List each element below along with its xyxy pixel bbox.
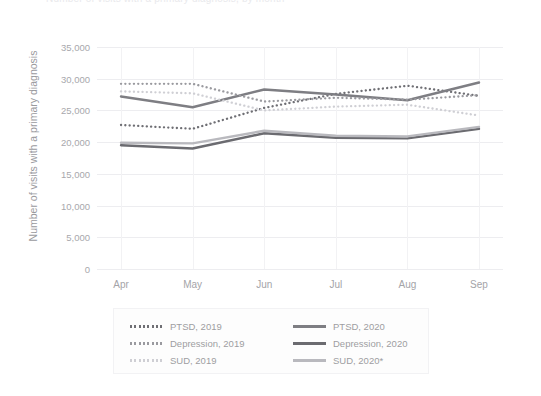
y-axis-tick-label: 0 (85, 264, 90, 275)
legend-swatch-icon (130, 325, 163, 328)
legend-item[interactable]: PTSD, 2019 (130, 318, 293, 335)
x-axis-tick-label: Jun (256, 279, 272, 290)
y-axis-tick-label: 10,000 (61, 200, 90, 211)
legend-swatch-icon (130, 359, 163, 362)
legend-item[interactable]: Depression, 2020 (293, 335, 453, 352)
series-line (121, 83, 479, 108)
x-axis-tick-label: May (183, 279, 202, 290)
legend-label: PTSD, 2019 (170, 321, 222, 332)
legend-item[interactable]: PTSD, 2020 (293, 318, 453, 335)
chart-legend: PTSD, 2019PTSD, 2020Depression, 2019Depr… (113, 308, 429, 374)
y-axis-tick-label: 25,000 (61, 105, 90, 116)
legend-label: PTSD, 2020 (333, 321, 385, 332)
plot-area: 05,00010,00015,00020,00025,00030,00035,0… (97, 47, 503, 272)
legend-label: Depression, 2019 (170, 338, 244, 349)
legend-item[interactable]: SUD, 2019 (130, 352, 293, 369)
x-axis-tick-label: Apr (113, 279, 129, 290)
legend-label: Depression, 2020 (333, 338, 407, 349)
legend-swatch-icon (293, 342, 326, 345)
y-axis-tick-label: 15,000 (61, 168, 90, 179)
y-axis-title: Number of visits with a primary diagnosi… (27, 21, 39, 271)
y-axis-tick-label: 20,000 (61, 137, 90, 148)
x-axis-tick-label: Jul (329, 279, 342, 290)
legend-item[interactable]: Depression, 2019 (130, 335, 293, 352)
legend-swatch-icon (293, 359, 326, 362)
y-axis-tick-label: 30,000 (61, 73, 90, 84)
legend-label: SUD, 2019 (170, 355, 216, 366)
x-axis-tick-label: Aug (398, 279, 416, 290)
series-line (121, 129, 479, 149)
clipped-chart-title: Number of visits with a primary diagnosi… (0, 0, 541, 8)
x-axis-tick-label: Sep (470, 279, 488, 290)
legend-label: SUD, 2020* (333, 355, 383, 366)
chart-page: Number of visits with a primary diagnosi… (0, 0, 541, 396)
series-lines (97, 47, 503, 272)
y-axis-tick-label: 5,000 (66, 232, 90, 243)
legend-swatch-icon (293, 325, 326, 328)
legend-swatch-icon (130, 342, 163, 345)
legend-item[interactable]: SUD, 2020* (293, 352, 453, 369)
y-axis-tick-label: 35,000 (61, 42, 90, 53)
clipped-chart-title-text: Number of visits with a primary diagnosi… (46, 0, 285, 4)
